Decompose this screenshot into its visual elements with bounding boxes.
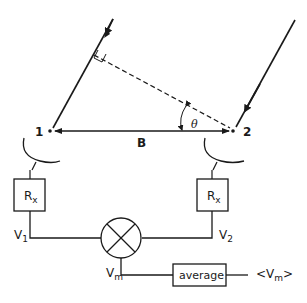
antenna-1-dish [23,138,60,163]
path-difference-line [94,55,230,128]
incoming-ray-2 [236,20,295,127]
receiver-1-label: Rx [24,189,38,205]
receiver-2-label: Rx [207,189,221,205]
output-label: <Vm> [256,267,293,283]
wire-v2 [142,211,212,238]
antenna-2-label: 2 [243,125,251,139]
incoming-ray-1 [53,19,113,128]
v1-label: V1 [14,228,28,244]
average-label: average [179,269,224,282]
v2-label: V2 [219,228,233,244]
angle-arc [181,106,186,130]
multiplier [101,218,141,258]
wire-vm [121,258,173,275]
antenna-1-point [48,129,52,133]
antenna-1-label: 1 [35,125,43,139]
angle-label: θ [191,118,198,131]
interferometer-diagram: 1 2 B θ Rx Rx V1 V2 Vm average <Vm> [0,0,307,303]
wire-v1 [30,211,101,238]
antenna-2-point [231,129,235,133]
baseline-label: B [137,136,146,150]
antenna-2-dish [204,138,244,163]
